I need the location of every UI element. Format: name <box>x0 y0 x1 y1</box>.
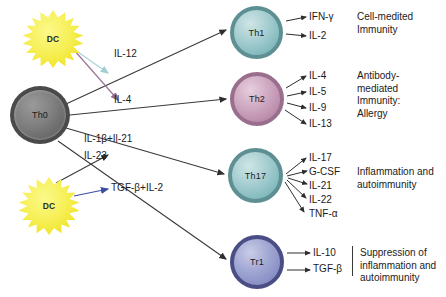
dendritic-cell-bottom[interactable]: DC <box>18 177 80 235</box>
cytokine-th17-3: IL-22 <box>309 194 332 206</box>
th1-effector-lines <box>286 17 306 36</box>
cytokine-th1-1: IL-2 <box>309 30 326 42</box>
cell-th1[interactable]: Th1 <box>230 6 283 59</box>
signal-label-il23: IL-23 <box>84 150 107 162</box>
cell-th2-label: Th2 <box>249 94 265 104</box>
cytokine-tr1-1: TGF-β <box>313 263 342 275</box>
cytokine-th2-3: IL-13 <box>309 118 332 130</box>
cell-th0-label: Th0 <box>32 110 48 120</box>
outcome-th17: Inflammation and autoimmunity <box>357 166 446 191</box>
outcome-th1-line-1: Immunity <box>357 24 413 37</box>
cytokine-th17-4: TNF-α <box>309 208 338 220</box>
cell-tr1-label: Tr1 <box>250 257 264 267</box>
outcome-tr1-line-0: Suppression of <box>360 247 446 260</box>
cytokine-th2-1: IL-5 <box>309 86 326 98</box>
outcome-tr1: Suppression of inflammation and autoimmu… <box>360 247 446 285</box>
cell-th17[interactable]: Th17 <box>228 148 283 203</box>
cell-th2[interactable]: Th2 <box>230 72 284 126</box>
outcome-th1: Cell-medited Immunity <box>357 11 413 36</box>
outcome-th1-line-0: Cell-medited <box>357 11 413 24</box>
cytokine-th17-0: IL-17 <box>309 152 332 164</box>
outcome-th2: Antibody- mediated Immunity: Allergy <box>357 70 400 120</box>
cytokine-th1-0: IFN-γ <box>309 11 333 23</box>
outcome-th2-line-0: Antibody- <box>357 70 400 83</box>
outcome-tr1-line-2: autoimmunity <box>360 272 446 285</box>
cytokine-th2-2: IL-9 <box>309 102 326 114</box>
cell-th1-label: Th1 <box>248 28 264 38</box>
outcome-th2-line-3: Allergy <box>357 108 400 121</box>
outcome-th2-line-1: mediated <box>357 83 400 96</box>
tr1-grouping-bracket <box>352 246 353 276</box>
outcome-th17-line-1: autoimmunity <box>357 179 446 192</box>
signal-label-il4: IL-4 <box>114 94 131 106</box>
cell-tr1[interactable]: Tr1 <box>230 235 284 289</box>
signal-label-tgfb-il2: TGF-β+IL-2 <box>111 182 163 194</box>
dendritic-cell-top-label: DC <box>47 34 59 44</box>
dendritic-cell-bottom-label: DC <box>43 201 55 211</box>
signal-label-il12: IL-12 <box>114 48 137 60</box>
diagram-canvas: Th0 Th1 Th2 Th17 Tr1 DC DC IL-12 IL-4 IL… <box>0 0 446 297</box>
signal-label-il1b-il21: IL-1β+Il-21 <box>84 133 132 145</box>
cytokine-th2-0: IL-4 <box>309 70 326 82</box>
cytokine-th17-1: G-CSF <box>309 166 340 178</box>
cytokine-th17-2: IL-21 <box>309 180 332 192</box>
outcome-th17-line-0: Inflammation and <box>357 166 446 179</box>
th17-effector-lines <box>285 158 307 212</box>
cytokine-tr1-0: IL-10 <box>313 247 336 259</box>
dendritic-cell-top[interactable]: DC <box>22 10 84 68</box>
th2-effector-lines <box>285 76 306 124</box>
cell-th17-label: Th17 <box>245 171 266 181</box>
cell-th0[interactable]: Th0 <box>10 86 70 144</box>
outcome-th2-line-2: Immunity: <box>357 95 400 108</box>
outcome-tr1-line-1: inflammation and <box>360 260 446 273</box>
tr1-effector-lines <box>287 253 310 270</box>
